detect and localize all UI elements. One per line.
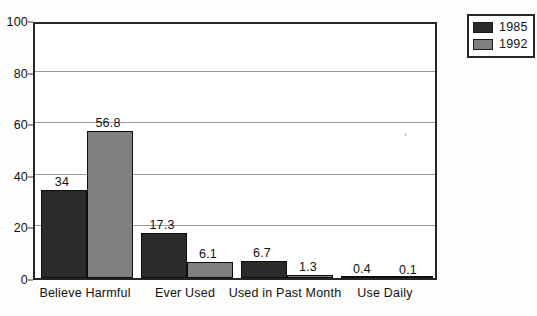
x-axis-category-label: Ever Used xyxy=(155,286,215,300)
bar-1992-believe-harmful xyxy=(87,131,133,278)
gridline xyxy=(35,71,435,72)
legend-item-1992: 1992 xyxy=(473,36,528,53)
bar-chart: 020406080100 3456.8Believe Harmful17.36.… xyxy=(0,0,537,316)
bar-value-label: 17.3 xyxy=(149,218,174,232)
bar-1985-use-daily xyxy=(341,276,387,278)
bar-1992-ever-used xyxy=(187,262,233,278)
bar-value-label: 0.1 xyxy=(399,263,417,277)
legend-label-1992: 1992 xyxy=(499,38,528,51)
y-axis-tick-label: 20 xyxy=(0,221,28,235)
y-axis-tick-label: 100 xyxy=(0,15,28,29)
plot-area xyxy=(33,22,437,280)
y-axis-tick-label: 40 xyxy=(0,170,28,184)
bar-value-label: 0.4 xyxy=(353,262,371,276)
x-axis-category-label: Use Daily xyxy=(357,286,412,300)
bar-1985-used-in-past-month xyxy=(241,261,287,278)
y-axis-tick-label: 80 xyxy=(0,67,28,81)
scan-speck xyxy=(404,133,407,136)
bar-value-label: 56.8 xyxy=(95,116,120,130)
legend: 1985 1992 xyxy=(467,14,535,58)
bar-value-label: 6.1 xyxy=(199,247,217,261)
bar-1992-used-in-past-month xyxy=(287,275,333,278)
y-axis-tick-label: 0 xyxy=(0,273,28,287)
bar-value-label: 1.3 xyxy=(299,260,317,274)
x-axis-category-label: Believe Harmful xyxy=(39,286,130,300)
bar-value-label: 34 xyxy=(55,175,69,189)
x-axis-category-label: Used in Past Month xyxy=(229,286,342,300)
legend-swatch-1992 xyxy=(473,39,493,50)
legend-swatch-1985 xyxy=(473,22,493,33)
legend-item-1985: 1985 xyxy=(473,19,528,36)
y-axis-tick-label: 60 xyxy=(0,118,28,132)
bar-1985-believe-harmful xyxy=(41,190,87,278)
legend-label-1985: 1985 xyxy=(499,21,528,34)
bar-1985-ever-used xyxy=(141,233,187,278)
bar-value-label: 6.7 xyxy=(253,246,271,260)
